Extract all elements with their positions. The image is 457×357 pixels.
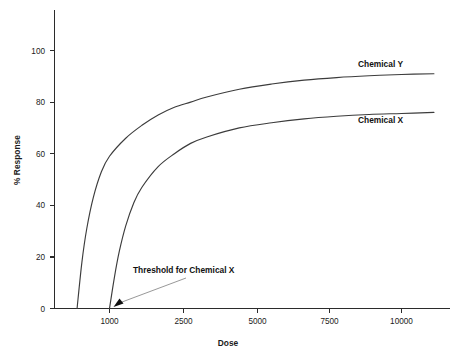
x-axis-title: Dose — [218, 338, 239, 348]
y-tick-label-60: 60 — [36, 150, 46, 159]
x-tick-label-7500: 7500 — [320, 317, 339, 326]
curve-chemical-x — [110, 112, 434, 308]
chart-canvas: 100 80 60 40 20 0 1000 2500 5000 7500 10… — [0, 0, 457, 357]
annotation-arrow-head — [114, 299, 124, 308]
annotation-threshold-label: Threshold for Chemical X — [133, 265, 235, 275]
annotation-leader-line — [122, 278, 186, 302]
y-axis-title: % Response — [12, 135, 22, 185]
x-tick-label-1000: 1000 — [100, 317, 119, 326]
curve-chemical-y — [77, 74, 434, 309]
y-tick-label-80: 80 — [36, 98, 46, 107]
x-tick-label-10000: 10000 — [390, 317, 413, 326]
y-tick-label-100: 100 — [31, 47, 45, 56]
series-label-chemical-x: Chemical X — [358, 115, 404, 125]
y-tick-label-20: 20 — [36, 253, 46, 262]
y-tick-label-0: 0 — [40, 305, 45, 314]
x-tick-label-2500: 2500 — [174, 317, 193, 326]
y-tick-label-40: 40 — [36, 201, 46, 210]
x-tick-label-5000: 5000 — [248, 317, 267, 326]
dose-response-chart: 100 80 60 40 20 0 1000 2500 5000 7500 10… — [0, 0, 457, 357]
series-label-chemical-y: Chemical Y — [358, 59, 403, 69]
